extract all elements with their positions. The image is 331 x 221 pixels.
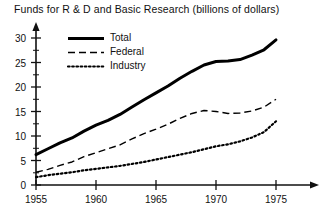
y-tick-label: 20 [8,82,26,93]
chart-series-group [36,40,276,177]
y-tick-label: 25 [8,58,26,69]
x-tick-label: 1975 [259,194,293,205]
legend-swatches [68,39,104,67]
y-tick-label: 0 [8,180,26,191]
x-tick-label: 1965 [139,194,173,205]
y-axis-arrow-icon [32,22,39,31]
y-tick-label: 15 [8,107,26,118]
chart-plot-area [0,0,331,221]
x-tick-label: 1970 [199,194,233,205]
series-line-federal [36,99,276,172]
x-tick-label: 1960 [79,194,113,205]
x-axis-arrow-icon [310,181,319,188]
x-tick-label: 1955 [19,194,53,205]
y-tick-label: 30 [8,33,26,44]
legend-label-federal: Federal [110,46,144,57]
chart-figure: Funds for R & D and Basic Research (bill… [0,0,331,221]
y-tick-label: 5 [8,156,26,167]
series-line-total [36,40,276,155]
y-tick-label: 10 [8,131,26,142]
legend-label-industry: Industry [110,60,146,71]
legend-label-total: Total [110,32,131,43]
